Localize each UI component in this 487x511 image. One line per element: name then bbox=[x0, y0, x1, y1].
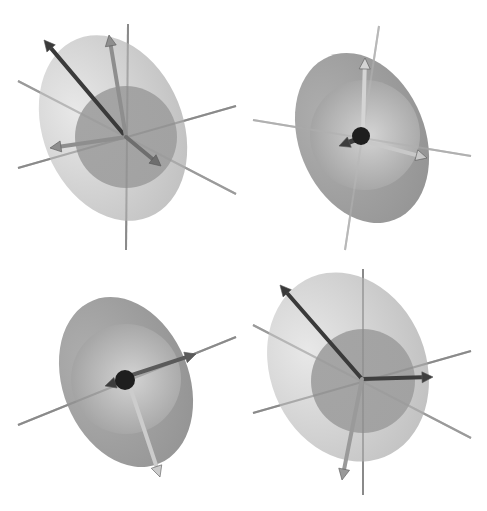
panel-bottom-left bbox=[0, 255, 243, 511]
arrow-head bbox=[184, 352, 196, 362]
panel-svg bbox=[0, 0, 243, 255]
center-ball bbox=[115, 370, 135, 390]
panel-bottom-right bbox=[243, 255, 487, 511]
arrow-shaft bbox=[362, 377, 422, 379]
arrow-head bbox=[151, 465, 161, 477]
panel-top-left bbox=[0, 0, 243, 255]
panel-top-right bbox=[243, 0, 487, 255]
center-ball bbox=[352, 127, 370, 145]
panel-svg bbox=[243, 0, 487, 255]
arrow-shaft bbox=[363, 69, 365, 130]
panel-svg bbox=[0, 255, 243, 511]
panel-svg bbox=[243, 255, 487, 511]
arrow-head bbox=[339, 468, 350, 480]
